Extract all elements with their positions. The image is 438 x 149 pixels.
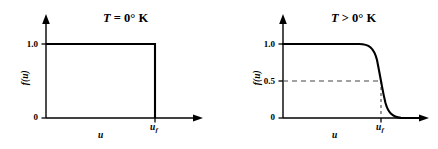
x-tick-label-uf-left: uf [150, 123, 158, 134]
y-tick-label-0-left: 0 [24, 113, 38, 122]
panel-t-equals-zero: T = 0° K 1.0 0 f(u) u uf [0, 0, 219, 149]
x-axis-left [46, 114, 203, 121]
x-axis-label-left: u [98, 131, 103, 141]
x-tick-label-uf-right: uf [376, 123, 384, 134]
y-tick-label-1.0-right: 1.0 [255, 40, 275, 49]
panel-left-title: T = 0° K [103, 12, 148, 25]
y-axis-right [279, 14, 287, 118]
y-tick-label-1.0-left: 1.0 [18, 40, 38, 49]
y-axis-label-right: f(u) [253, 61, 263, 95]
y-axis-label-left: f(u) [21, 61, 31, 95]
curve-step-function [46, 44, 155, 118]
panel-right-title: T > 0° K [331, 12, 376, 25]
y-tick-label-0-right: 0 [261, 113, 275, 122]
y-axis-left [42, 14, 50, 118]
x-axis-label-right: u [332, 131, 337, 141]
panel-t-greater-zero: T > 0° K 1.0 0.5 0 f(u) u uf [219, 0, 438, 149]
fermi-dirac-figure: T = 0° K 1.0 0 f(u) u uf [0, 0, 438, 149]
